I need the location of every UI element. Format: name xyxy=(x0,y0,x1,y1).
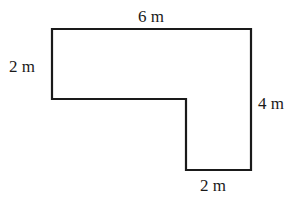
right-dimension-label: 4 m xyxy=(258,95,284,112)
top-dimension-label: 6 m xyxy=(138,8,164,25)
bottom-dimension-label: 2 m xyxy=(200,177,226,194)
left-dimension-label: 2 m xyxy=(9,58,35,75)
l-shape-outline xyxy=(52,29,251,170)
l-shape-figure xyxy=(0,0,301,201)
